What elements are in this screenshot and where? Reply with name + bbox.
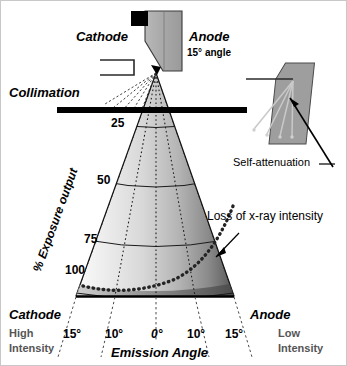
loss-annotation-leader	[216, 233, 239, 257]
self-attenuation-inset	[246, 63, 335, 167]
angle-tick-right-10: 10°	[187, 327, 205, 341]
exposure-cone	[63, 73, 249, 300]
anode-angle-label: 15° angle	[187, 47, 231, 58]
axis-right-intensity-line1: Low	[278, 327, 300, 339]
scale-tick-25: 25	[111, 116, 124, 130]
angle-tick-left-15: 15°	[63, 327, 81, 341]
axis-left-intensity-line1: High	[9, 327, 33, 339]
cathode-label: Cathode	[76, 29, 128, 44]
axis-right-intensity-line2: Intensity	[278, 342, 323, 354]
angle-tick-center-0: 0°	[151, 327, 162, 341]
collimation-label: Collimation	[9, 85, 80, 100]
anode-label: Anode	[189, 29, 229, 44]
scale-tick-75: 75	[84, 232, 97, 246]
angle-tick-right-15: 15°	[225, 327, 243, 341]
angle-tick-left-10: 10°	[105, 327, 123, 341]
emission-angle-axis-title: Emission Angle	[111, 345, 208, 360]
self-attenuation-label: Self-attenuation	[233, 156, 310, 168]
scale-tick-50: 50	[97, 173, 110, 187]
x-ray-heel-effect-figure: Cathode Anode 15° angle Collimation % Ex…	[0, 0, 347, 366]
collimator-bar	[57, 107, 247, 113]
anode-block	[145, 11, 182, 71]
axis-right-electrode: Anode	[250, 307, 290, 322]
axis-left-electrode: Cathode	[9, 307, 61, 322]
scale-tick-100: 100	[65, 263, 85, 277]
axis-left-intensity-line2: Intensity	[9, 342, 54, 354]
cathode-cup-icon	[100, 60, 134, 75]
loss-annotation-label: Loss of x-ray intensity	[207, 209, 323, 223]
electron-source-block	[131, 11, 148, 26]
